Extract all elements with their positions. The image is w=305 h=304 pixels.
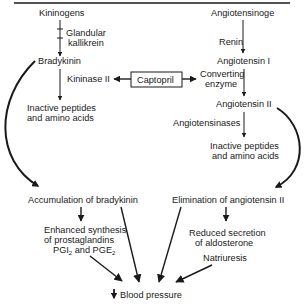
converting-enzyme-label-1: Converting [200,69,244,79]
natriuresis-to-bp-arrow [176,265,212,282]
bradykinin-label: Bradykinin [38,56,81,66]
angiotensin-i-label: Angiotensin I [217,56,270,66]
reduced-secretion-label-2: of aldosterone [195,238,253,248]
natriuresis-label: Natriuresis [203,253,247,263]
right-inactive-peptides-label-1: Inactive peptides [210,141,279,151]
angiotensin-ii-label: Angiotensin II [216,99,272,109]
angiotensin-ii-to-elimination-curve-arrow [276,108,300,187]
right-inactive-peptides-label-2: and amino acids [212,151,279,161]
kininogens-label: Kininogens [39,8,85,18]
prostaglandins-pgi2-pge2-label: PGI2 and PGE2 [53,245,116,256]
renin-label: Renin [219,37,243,47]
left-inactive-peptides-label-2: and amino acids [27,113,94,123]
elimination-to-bp-arrow [159,207,181,282]
captopril-mechanism-diagram: Kininogens Glandular kallikrein Bradykin… [0,0,305,304]
angiotensinogen-label: Angiotensinoge [211,8,274,18]
enhanced-synthesis-label-1: Enhanced synthesis [44,225,127,235]
glandular-kallikrein-label-1: Glandular [66,28,106,38]
angiotensinases-label: Angiotensinases [173,118,241,128]
prostaglandins-to-bp-arrow [90,256,122,281]
reduced-secretion-label-1: Reduced secretion [189,228,266,238]
left-inactive-peptides-label-1: Inactive peptides [27,103,96,113]
glandular-kallikrein-label-2: kallikrein [68,38,104,48]
captopril-label: Captopril [137,75,174,85]
kininase-ii-label: Kininase II [67,74,110,84]
converting-enzyme-label-2: enzyme [205,79,237,89]
elimination-of-angiotensin-ii-label: Elimination of angiotensin II [172,195,284,205]
bradykinin-to-accumulation-curve-arrow [5,61,38,186]
enhanced-synthesis-label-2: of prostaglandins [44,235,114,245]
accumulation-to-bp-arrow [121,207,139,282]
accumulation-of-bradykinin-label: Accumulation of bradykinin [28,195,138,205]
blood-pressure-label: Blood pressure [120,290,182,300]
